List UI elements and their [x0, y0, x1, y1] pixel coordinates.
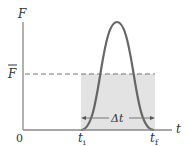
- svg-text:i: i: [83, 138, 86, 146]
- average-force-label: F: [7, 65, 17, 81]
- delta-t-label: Δt: [110, 112, 124, 125]
- x-axis-label: t: [176, 122, 181, 136]
- impulse-diagram: F t 0 F t i t f Δt: [0, 0, 185, 146]
- svg-text:f: f: [155, 138, 159, 146]
- t-final-label: t f: [150, 131, 159, 146]
- origin-label: 0: [16, 132, 23, 145]
- t-initial-label: t i: [78, 131, 86, 146]
- y-axis-label: F: [17, 7, 27, 21]
- svg-text:F: F: [7, 67, 17, 81]
